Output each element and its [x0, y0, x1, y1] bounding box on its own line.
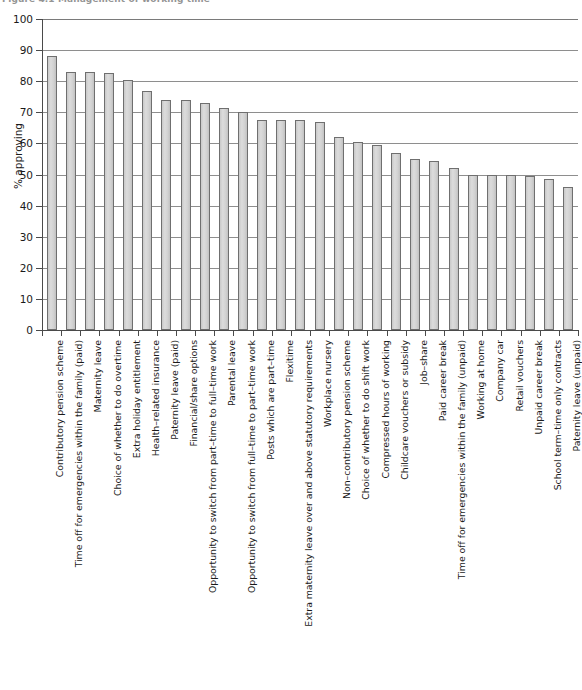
x-axis-category-label: Financial/share options — [189, 340, 198, 447]
x-axis-tick — [253, 330, 254, 336]
x-axis-category-label: Health–related insurance — [151, 340, 160, 456]
x-axis-category-label: Maternity leave — [93, 340, 102, 412]
x-axis-tick — [80, 330, 81, 336]
x-axis-category-label: Contributory pension scheme — [55, 340, 64, 477]
x-axis-category-label: Extra maternity leave over and above sta… — [304, 340, 313, 627]
x-axis-category-label: Workplace nursery — [323, 340, 332, 427]
x-axis-tick — [99, 330, 100, 336]
y-axis-tick — [36, 268, 42, 269]
x-axis-category-label: Time off for emergencies within the fami… — [457, 340, 466, 579]
x-axis-category-label: School term–time only contracts — [553, 340, 562, 490]
y-axis-tick — [36, 19, 42, 20]
y-axis-tick — [36, 143, 42, 144]
x-axis-category-label: Opportunity to switch from full–time to … — [247, 340, 256, 593]
x-axis-category-label: Childcare vouchers or subsidy — [400, 340, 409, 480]
x-axis-tick — [233, 330, 234, 336]
x-axis-tick — [367, 330, 368, 336]
x-axis-tick — [138, 330, 139, 336]
y-axis-tick — [36, 206, 42, 207]
x-axis-category-label: Paternity leave (unpaid) — [572, 340, 581, 452]
x-axis-category-label: Choice of whether to do overtime — [113, 340, 122, 496]
x-axis-tick — [119, 330, 120, 336]
x-axis-tick — [578, 330, 579, 336]
x-axis-category-label: Parental leave — [227, 340, 236, 406]
x-axis-category-label: Company car — [495, 340, 504, 402]
x-axis-category-label: Time off for emergencies within the fami… — [74, 340, 83, 567]
x-axis-tick — [176, 330, 177, 336]
y-axis-tick — [36, 81, 42, 82]
x-axis-tick — [42, 330, 43, 336]
x-axis-category-label: Retail vouchers — [515, 340, 524, 412]
y-axis-tick — [36, 299, 42, 300]
x-axis-tick — [482, 330, 483, 336]
x-axis-category-label: Non–contributory pension scheme — [342, 340, 351, 499]
x-axis-category-label: Posts which are part–time — [266, 340, 275, 460]
y-axis-tick — [36, 175, 42, 176]
x-axis-tick — [425, 330, 426, 336]
x-axis-tick — [195, 330, 196, 336]
x-axis-category-label: Flexitime — [285, 340, 294, 382]
x-axis-tick — [214, 330, 215, 336]
x-axis-tick — [444, 330, 445, 336]
x-axis-category-label: Job–share — [419, 340, 428, 385]
x-axis-tick — [329, 330, 330, 336]
y-axis-tick — [36, 50, 42, 51]
x-axis-tick — [310, 330, 311, 336]
y-axis-tick — [36, 237, 42, 238]
x-axis-category-label: Unpaid career break — [534, 340, 543, 435]
x-axis-category-label: Extra holiday entitlement — [132, 340, 141, 458]
x-axis-category-label: Choice of whether to do shift work — [361, 340, 370, 500]
x-axis-tick — [157, 330, 158, 336]
x-axis-tick — [406, 330, 407, 336]
x-axis-tick — [540, 330, 541, 336]
x-axis-category-label: Paid career break — [438, 340, 447, 421]
x-axis-tick — [521, 330, 522, 336]
x-axis-tick — [291, 330, 292, 336]
x-axis-tick — [559, 330, 560, 336]
x-axis-tick — [463, 330, 464, 336]
x-axis-tick — [387, 330, 388, 336]
x-axis-tick — [272, 330, 273, 336]
x-axis-category-label: Working at home — [476, 340, 485, 419]
x-axis-tick — [348, 330, 349, 336]
x-axis-tick — [61, 330, 62, 336]
y-axis-tick — [36, 112, 42, 113]
x-axis-category-label: Paternity leave (paid) — [170, 340, 179, 440]
x-axis-category-label: Compressed hours of working — [381, 340, 390, 478]
x-axis-tick — [501, 330, 502, 336]
x-axis-category-label: Opportunity to switch from part–time to … — [208, 340, 217, 593]
